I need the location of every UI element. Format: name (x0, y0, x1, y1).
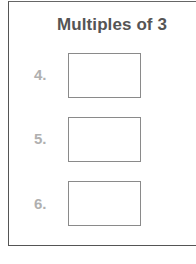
worksheet-title: Multiples of 3 (9, 15, 196, 35)
row-number-5: 5. (34, 130, 47, 147)
answer-box-6[interactable] (68, 181, 141, 226)
answer-box-5[interactable] (68, 117, 141, 162)
row-number-4: 4. (34, 66, 47, 83)
answer-box-4[interactable] (68, 53, 141, 98)
row-number-6: 6. (34, 195, 47, 212)
